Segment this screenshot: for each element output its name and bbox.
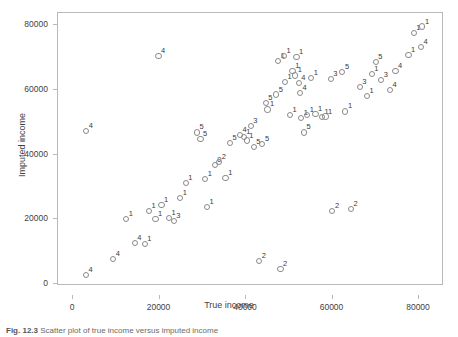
data-point-label: 3 [362, 77, 366, 86]
data-point-label: 2 [354, 199, 358, 208]
data-point-label: 5 [265, 134, 269, 143]
scatter-plot-figure: 4441411141131155110215411352551512111111… [0, 0, 458, 337]
data-point-label: 2 [262, 251, 266, 260]
y-axis-tick [53, 154, 57, 155]
data-point-label: 1 [293, 105, 297, 114]
data-point-label: 4 [392, 80, 396, 89]
y-axis-tick [53, 24, 57, 25]
data-point-label: 1 [164, 195, 168, 204]
data-point-label: 4 [398, 61, 402, 70]
data-point-label: 1 [210, 197, 214, 206]
data-point-label: 4 [89, 121, 93, 130]
data-point-label: 1 [287, 46, 291, 55]
y-axis-tick [53, 283, 57, 284]
x-axis-tick [159, 295, 160, 299]
data-point-label: 1 [158, 209, 162, 218]
data-points-layer: 4441411141131155110215411352551512111111… [57, 12, 443, 285]
data-point-label: 1 [314, 68, 318, 77]
x-axis-title: True income [0, 300, 458, 310]
x-axis-tick [245, 295, 246, 299]
x-axis-tick [332, 295, 333, 299]
data-point-label: 1 [411, 45, 415, 54]
data-point-label: 4 [303, 83, 307, 92]
data-point-label: 4 [116, 249, 120, 258]
data-point-label: 1 [249, 131, 253, 140]
data-point-label: 1 [171, 208, 175, 217]
data-point-label: 5 [203, 129, 207, 138]
x-axis-tick [72, 295, 73, 299]
y-axis-tick-label: 0 [4, 278, 48, 288]
data-point-label: 2 [222, 152, 226, 161]
figure-caption: Fig. 12.3 Scatter plot of true income ve… [6, 326, 456, 336]
data-point-label: 3 [333, 69, 337, 78]
data-point-label: 4 [161, 46, 165, 55]
data-point-label: 2 [335, 201, 339, 210]
figure-caption-text: Scatter plot of true income versus imput… [40, 326, 218, 335]
y-axis-tick-label: 80000 [4, 19, 48, 29]
data-point-label: 1 [370, 86, 374, 95]
y-axis-tick [53, 89, 57, 90]
data-point-label: 1 [188, 173, 192, 182]
data-point-label: 1 [183, 188, 187, 197]
data-point-label: 1 [374, 64, 378, 73]
data-point-label: 5 [345, 62, 349, 71]
data-point-label: 2 [283, 259, 287, 268]
data-point-label: 5 [232, 133, 236, 142]
figure-caption-number: Fig. 12.3 [6, 326, 38, 335]
data-point-label: 1 [147, 234, 151, 243]
data-point-label: 3 [176, 211, 180, 220]
x-axis-tick [418, 295, 419, 299]
data-point-label: 5 [306, 122, 310, 131]
y-axis-title: Imputed income [17, 75, 27, 215]
y-axis-tick [53, 218, 57, 219]
data-point-label: 3 [384, 70, 388, 79]
data-point-label: 4 [88, 265, 92, 274]
data-point-label: 5 [279, 85, 283, 94]
data-point-label: 4 [301, 73, 305, 82]
data-point-label: 5 [378, 52, 382, 61]
data-point-label: 1 [318, 104, 322, 113]
data-point-label: 1 [299, 47, 303, 56]
data-point-label: 1 [348, 101, 352, 110]
data-point-label: 1 [152, 201, 156, 210]
data-point-label: 1 [228, 168, 232, 177]
data-point-label: 4 [137, 233, 141, 242]
data-point-label: 1 [425, 17, 429, 26]
data-point-label: 1 [328, 107, 332, 116]
data-point-label: 1 [129, 209, 133, 218]
data-point-label: 3 [253, 116, 257, 125]
data-point-label: 4 [424, 37, 428, 46]
data-point-label: 1 [270, 99, 274, 108]
data-point-label: 1 [208, 169, 212, 178]
